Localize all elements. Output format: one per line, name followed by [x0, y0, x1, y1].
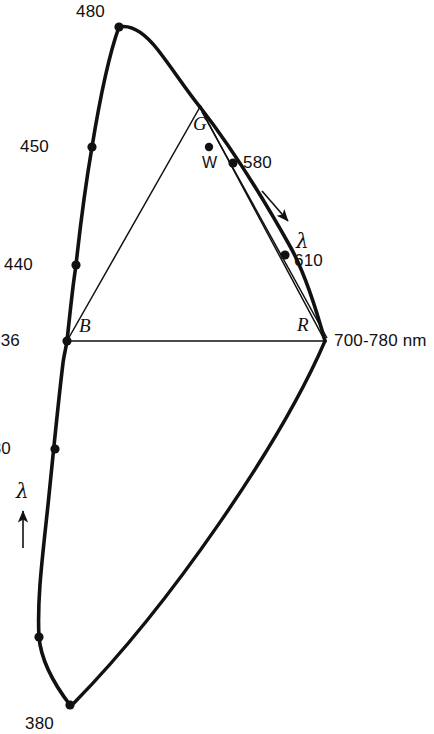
- white-point-marker: [205, 143, 213, 151]
- long-wavelength-endpoint-label: 700-780 nm: [334, 332, 427, 349]
- wavelength-label-440: 440: [4, 256, 33, 273]
- chromaticity-figure: 480450440436430420380580610BGRW700-780 n…: [0, 0, 434, 734]
- wavelength-label-610: 610: [294, 252, 323, 269]
- wavelength-marker-380: [65, 700, 74, 709]
- wavelength-label-580: 580: [243, 154, 272, 171]
- wavelength-label-380: 380: [25, 715, 54, 732]
- primary-label-b: B: [79, 316, 91, 335]
- green-red-inner-edge: [202, 112, 327, 338]
- primary-label-g: G: [193, 114, 207, 133]
- lambda-symbol-1: λ: [296, 231, 309, 251]
- spectral-locus-curve: [39, 27, 200, 705]
- lambda-symbol-2: λ: [16, 481, 29, 501]
- wavelength-marker-480: [114, 22, 123, 31]
- wavelength-label-430: 430: [0, 440, 11, 457]
- wavelength-marker-group: [34, 22, 289, 709]
- white-point-marker-group: [205, 143, 213, 151]
- wavelength-label-480: 480: [76, 3, 105, 20]
- wavelength-marker-610: [280, 250, 289, 259]
- wavelength-marker-450: [87, 142, 96, 151]
- white-point-label: W: [202, 155, 217, 171]
- wavelength-marker-420: [34, 632, 43, 641]
- spectral-locus-group: [39, 27, 325, 705]
- wavelength-marker-430: [50, 444, 59, 453]
- rgb-primary-triangle: [67, 107, 325, 341]
- primary-label-r: R: [297, 315, 309, 334]
- wavelength-label-450: 450: [20, 138, 49, 155]
- wavelength-marker-440: [71, 260, 80, 269]
- triangle-group: [67, 107, 327, 341]
- chromaticity-diagram-svg: [0, 0, 434, 734]
- wavelength-marker-580: [228, 158, 237, 167]
- wavelength-label-436: 436: [0, 332, 20, 349]
- wavelength-marker-436: [62, 336, 71, 345]
- purple-line-curve: [74, 341, 325, 703]
